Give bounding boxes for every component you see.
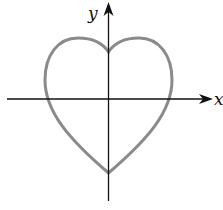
heart-diagram: x y <box>0 0 223 210</box>
x-axis-label: x <box>214 89 223 109</box>
y-axis-label: y <box>87 3 98 23</box>
